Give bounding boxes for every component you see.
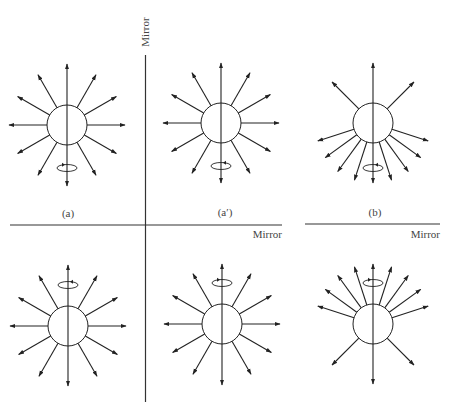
emission-arrow-icon	[354, 267, 366, 305]
emission-arrow-icon	[84, 135, 116, 154]
vertical-mirror-label: Mirror	[139, 17, 151, 47]
emission-arrow-icon	[239, 296, 271, 315]
emission-arrow-icon	[379, 142, 391, 180]
emission-arrow-icon	[338, 275, 362, 307]
emission-arrow-icon	[192, 140, 211, 173]
emission-arrow-icon	[231, 73, 250, 106]
emission-arrow-icon	[39, 276, 58, 309]
emission-arrow-icon	[172, 133, 204, 152]
emission-arrow-icon	[84, 97, 116, 116]
emission-arrow-icon	[385, 139, 409, 171]
emission-arrow-icon	[232, 341, 251, 374]
emission-arrow-icon	[19, 298, 51, 317]
emission-arrow-icon	[325, 289, 357, 312]
emission-arrow-icon	[389, 135, 421, 158]
emission-arrow-icon	[173, 334, 205, 353]
emission-arrow-icon	[239, 334, 271, 353]
emission-arrow-icon	[39, 343, 58, 376]
emission-arrow-icon	[389, 289, 421, 312]
emission-arrow-icon	[85, 298, 117, 317]
panel-a-prime-reflected	[164, 264, 280, 385]
emission-arrow-icon	[318, 129, 354, 141]
emission-arrow-icon	[38, 142, 57, 175]
emission-arrow-icon	[392, 129, 428, 141]
emission-arrow-icon	[379, 267, 391, 305]
emission-arrow-icon	[19, 336, 51, 355]
panel-b-reflected	[318, 264, 428, 384]
panel-b	[318, 63, 428, 183]
emission-arrow-icon	[18, 97, 50, 116]
emission-arrow-icon	[387, 338, 414, 365]
emission-arrow-icon	[232, 274, 251, 307]
emission-arrow-icon	[173, 296, 205, 315]
emission-arrow-icon	[231, 140, 250, 173]
emission-arrow-icon	[38, 75, 57, 108]
emission-arrow-icon	[318, 306, 354, 318]
emission-arrow-icon	[387, 82, 414, 109]
emission-arrow-icon	[238, 95, 270, 114]
emission-arrow-icon	[193, 341, 212, 374]
emission-arrow-icon	[85, 336, 117, 355]
emission-arrow-icon	[354, 142, 366, 180]
emission-arrow-icon	[325, 135, 357, 158]
panel-a	[9, 64, 125, 186]
panel-a-reflected	[10, 265, 126, 386]
emission-arrow-icon	[193, 274, 212, 307]
panel-label: (b)	[369, 206, 382, 219]
horizontal-mirror-a-label: Mirror	[253, 228, 283, 240]
emission-arrow-icon	[77, 75, 96, 108]
emission-arrow-icon	[78, 343, 97, 376]
emission-arrow-icon	[338, 139, 362, 171]
panel-a-prime	[163, 63, 279, 183]
emission-arrow-icon	[192, 73, 211, 106]
horizontal-mirror-b-label: Mirror	[411, 228, 441, 240]
emission-arrow-icon	[332, 338, 359, 365]
emission-arrow-icon	[332, 82, 359, 109]
emission-arrow-icon	[77, 142, 96, 175]
emission-arrow-icon	[385, 275, 409, 307]
emission-arrow-icon	[172, 95, 204, 114]
emission-arrow-icon	[18, 135, 50, 154]
emission-arrow-icon	[392, 306, 428, 318]
panel-label: (a′)	[218, 206, 233, 219]
panel-labels: (a)(a′)(b)	[62, 206, 382, 220]
panel-label: (a)	[62, 207, 75, 220]
emission-arrow-icon	[78, 276, 97, 309]
mirror-symmetry-diagram: MirrorMirrorMirror (a)(a′)(b)	[0, 0, 451, 408]
emission-arrow-icon	[238, 133, 270, 152]
